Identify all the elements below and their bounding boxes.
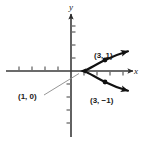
parabola-figure: x y	[0, 0, 146, 143]
vertex-label: (1, 0)	[18, 92, 37, 101]
upper-point-label: (3, 1)	[94, 51, 113, 60]
vertex-leader-line	[44, 74, 79, 96]
lower-point-label: (3, −1)	[90, 96, 114, 105]
coordinate-plane-svg: x y	[0, 0, 146, 143]
x-axis: x	[6, 66, 138, 76]
x-axis-label: x	[133, 66, 138, 76]
point-marker-lower	[103, 80, 108, 85]
y-axis: y	[67, 2, 76, 137]
vertex-cusp	[80, 69, 86, 74]
y-axis-label: y	[68, 2, 73, 12]
